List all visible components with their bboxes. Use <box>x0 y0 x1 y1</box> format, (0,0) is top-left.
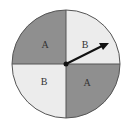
sector-label-top-left: A <box>41 39 49 50</box>
sector-top-right <box>66 10 120 64</box>
sector-label-bottom-right: A <box>83 77 91 88</box>
pivot-dot <box>64 62 69 67</box>
sector-label-top-right: B <box>82 39 89 50</box>
sector-bottom-right <box>66 64 120 118</box>
spinner: A B B A <box>12 10 120 118</box>
sector-top-left <box>12 10 66 64</box>
sector-bottom-left <box>12 64 66 118</box>
sector-label-bottom-left: B <box>41 76 48 87</box>
spinner-diagram: A B B A <box>0 0 125 123</box>
